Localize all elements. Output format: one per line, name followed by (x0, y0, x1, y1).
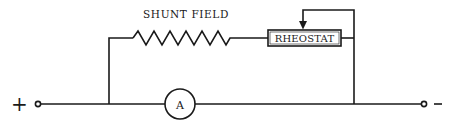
ammeter-label: A (175, 99, 185, 112)
positive-terminal-label: + (11, 92, 28, 116)
rheostat: RHEOSTAT (268, 30, 341, 46)
shunt-branch-left-wire (109, 38, 133, 104)
negative-terminal (421, 101, 426, 106)
shunt-field: SHUNT FIELD (133, 8, 268, 45)
shunt-field-label: SHUNT FIELD (143, 8, 229, 20)
shunt-field-coil (133, 31, 268, 45)
circuit-diagram: + A − SHUNT FIELD RHEOSTAT (0, 0, 452, 126)
slider-arrow-icon (299, 21, 307, 30)
ammeter: A (165, 89, 195, 119)
positive-terminal (35, 101, 40, 106)
rheostat-label: RHEOSTAT (275, 33, 335, 44)
